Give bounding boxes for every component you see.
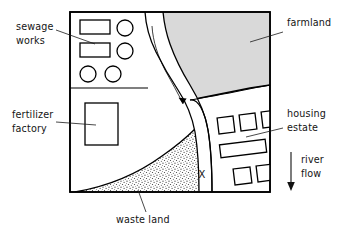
housing-estate-label-line1: housing <box>287 108 326 119</box>
sewage-works-label-line2: works <box>16 35 45 46</box>
fertilizer-factory-label-line2: factory <box>12 123 47 134</box>
sample-point-x-marker: X <box>199 169 206 180</box>
map-canvas: X sewage works fertilizer factory farmla… <box>0 0 337 234</box>
housing-block-2 <box>239 113 257 131</box>
down-arrow-icon-head <box>287 182 295 191</box>
sewage-tank-circle-3 <box>80 66 96 82</box>
housing-estate-label-line2: estate <box>287 122 318 133</box>
sewage-tank-rect-2 <box>80 43 110 57</box>
sewage-tank-rect-1 <box>80 20 110 34</box>
label-waste-land: waste land <box>116 214 170 225</box>
label-sewage-works: sewage works <box>16 21 54 46</box>
fertilizer-factory-building <box>85 103 118 145</box>
label-housing-estate: housing estate <box>287 108 326 133</box>
river-flow-label-line1: river <box>301 154 324 165</box>
sewage-tank-circle-2 <box>117 43 133 59</box>
fertilizer-factory-label-line1: fertilizer <box>12 109 53 120</box>
waste-land-label-line1: waste land <box>116 214 170 225</box>
label-fertilizer-factory: fertilizer factory <box>12 109 53 134</box>
housing-block-1 <box>217 116 235 134</box>
sewage-tank-circle-1 <box>117 20 133 36</box>
housing-block-4 <box>233 167 252 185</box>
farmland-label-line1: farmland <box>287 17 331 28</box>
river-flow-indicator: river flow <box>287 152 324 191</box>
sewage-works-label-line1: sewage <box>16 21 54 32</box>
label-farmland: farmland <box>287 17 331 28</box>
housing-block-5 <box>256 164 275 182</box>
land-use-map-figure: X sewage works fertilizer factory farmla… <box>0 0 337 234</box>
sewage-tank-circle-4 <box>105 66 121 82</box>
waste-land-leader-line <box>138 190 146 212</box>
river-flow-label-line2: flow <box>301 168 321 179</box>
